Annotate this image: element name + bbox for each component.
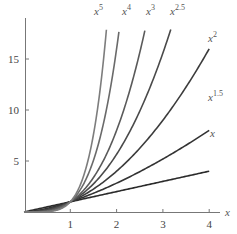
- curve-x-4: [24, 32, 119, 212]
- curve-x: [24, 171, 209, 212]
- y-tick-label: 5: [14, 155, 20, 167]
- curve-label-x-4: x4: [121, 3, 131, 17]
- curve-label-x-3: x3: [145, 3, 155, 17]
- curves-group: [24, 30, 209, 212]
- curve-x-3: [24, 31, 145, 212]
- power-functions-chart: 1234 51015 x xx1.5x2x2.5x3x4x5: [0, 0, 237, 234]
- curve-label-x-5: x5: [93, 3, 103, 17]
- curve-label-x-1-5: x1.5: [207, 89, 223, 103]
- x-axis-label: x: [224, 206, 230, 218]
- y-tick-label: 15: [8, 53, 20, 65]
- y-tick-label: 10: [8, 104, 20, 116]
- curve-x-5: [24, 30, 106, 212]
- x-tick-label: 3: [160, 218, 166, 230]
- x-tick-label: 1: [68, 218, 74, 230]
- curve-label-x: x: [209, 127, 215, 139]
- curve-label-x-2-5: x2.5: [169, 3, 185, 17]
- x-tick-label: 4: [206, 218, 212, 230]
- curve-label-x-2: x2: [207, 30, 217, 44]
- x-tick-label: 2: [114, 218, 120, 230]
